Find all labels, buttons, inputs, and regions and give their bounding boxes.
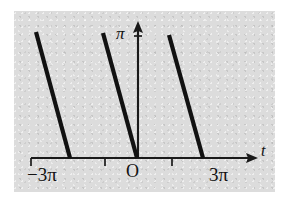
sawtooth-segment-1 (36, 32, 70, 158)
x-tick-label-neg-3pi: −3π (27, 165, 57, 184)
x-axis-name-label: t (261, 143, 265, 159)
sawtooth-segment-2 (103, 33, 137, 158)
x-tick-label-pos-3pi: 3π (209, 165, 228, 184)
figure-root: π O −3π 3π t (0, 0, 287, 206)
sawtooth-segment-3 (169, 35, 203, 158)
y-axis-value-label: π (116, 25, 125, 42)
origin-label: O (126, 162, 139, 180)
